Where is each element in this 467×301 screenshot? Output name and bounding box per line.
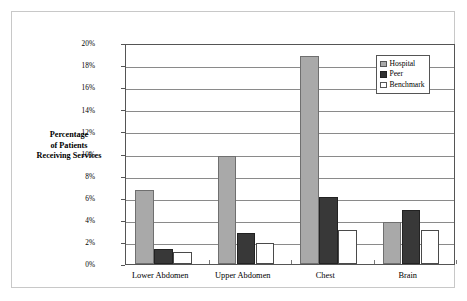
legend-swatch-icon bbox=[380, 61, 387, 68]
bar-hospital-chest[interactable] bbox=[300, 56, 319, 264]
legend-label: Hospital bbox=[390, 60, 416, 68]
bar-benchmark-upper-abdomen[interactable] bbox=[256, 243, 275, 264]
y-axis-tick-label: 8% bbox=[61, 173, 95, 180]
y-axis-tick-label: 0% bbox=[61, 261, 95, 268]
y-axis-tick-label: 2% bbox=[61, 239, 95, 246]
bar-peer-upper-abdomen[interactable] bbox=[237, 233, 256, 264]
y-axis-tick-label: 12% bbox=[61, 129, 95, 136]
legend-swatch-icon bbox=[380, 71, 387, 78]
bar-benchmark-lower-abdomen[interactable] bbox=[173, 252, 192, 264]
legend-item-peer[interactable]: Peer bbox=[380, 69, 425, 80]
bar-benchmark-chest[interactable] bbox=[338, 230, 357, 264]
y-axis-tick-label: 18% bbox=[61, 62, 95, 69]
y-axis-title-line-2: of Patients bbox=[26, 141, 112, 152]
y-axis-tick-mark bbox=[121, 265, 125, 266]
y-axis-tick-label: 20% bbox=[61, 40, 95, 47]
y-axis-tick-label: 10% bbox=[61, 151, 95, 158]
legend-swatch-icon bbox=[380, 82, 387, 89]
bar-peer-lower-abdomen[interactable] bbox=[154, 249, 173, 264]
legend-item-benchmark[interactable]: Benchmark bbox=[380, 80, 425, 91]
x-axis-category-label: Lower Abdomen bbox=[119, 271, 202, 280]
x-axis-tick-mark bbox=[291, 260, 292, 264]
x-axis-tick-mark bbox=[374, 260, 375, 264]
legend-item-hospital[interactable]: Hospital bbox=[380, 59, 425, 70]
bar-group bbox=[218, 45, 275, 264]
bar-hospital-brain[interactable] bbox=[383, 222, 402, 264]
bar-hospital-upper-abdomen[interactable] bbox=[218, 156, 237, 264]
bar-peer-brain[interactable] bbox=[402, 210, 421, 264]
chart-legend: HospitalPeerBenchmark bbox=[376, 55, 430, 94]
legend-label: Peer bbox=[390, 70, 404, 78]
x-axis-tick-mark bbox=[456, 260, 457, 264]
chart-frame: Percentage of Patients Receiving Service… bbox=[11, 11, 455, 288]
y-axis-tick-label: 16% bbox=[61, 84, 95, 91]
bar-group bbox=[135, 45, 192, 264]
bar-benchmark-brain[interactable] bbox=[421, 230, 440, 264]
bar-hospital-lower-abdomen[interactable] bbox=[135, 190, 154, 264]
y-axis-tick-label: 6% bbox=[61, 195, 95, 202]
y-axis-tick-label: 4% bbox=[61, 217, 95, 224]
x-axis-category-label: Chest bbox=[284, 271, 367, 280]
bar-group bbox=[300, 45, 357, 264]
y-axis-tick-label: 14% bbox=[61, 107, 95, 114]
legend-label: Benchmark bbox=[390, 81, 425, 89]
x-axis-tick-mark bbox=[209, 260, 210, 264]
x-axis-category-label: Brain bbox=[367, 271, 450, 280]
bar-peer-chest[interactable] bbox=[319, 197, 338, 264]
x-axis-category-label: Upper Abdomen bbox=[202, 271, 285, 280]
